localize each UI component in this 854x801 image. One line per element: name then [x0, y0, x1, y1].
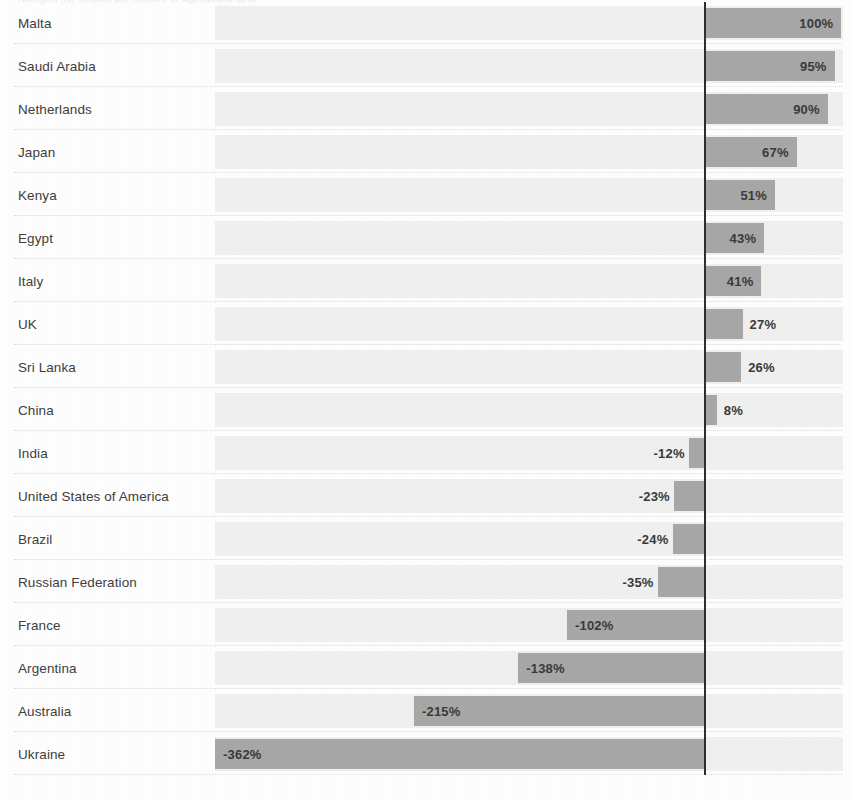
chart-row: Saudi Arabia95% [0, 45, 854, 88]
chart-row: Brazil-24% [0, 518, 854, 561]
bar-value-label: -138% [526, 647, 565, 690]
category-label: India [18, 432, 48, 475]
bar [706, 309, 743, 339]
chart-row: Kenya51% [0, 174, 854, 217]
bar-value-label: 43% [706, 217, 756, 260]
bar-value-label: -24% [627, 518, 669, 561]
bar-value-label: -35% [612, 561, 654, 604]
bar-value-label: -215% [422, 690, 461, 733]
row-background-band [215, 522, 843, 556]
chart-row: United States of America-23% [0, 475, 854, 518]
chart-row: France-102% [0, 604, 854, 647]
chart-row: India-12% [0, 432, 854, 475]
chart-row: Sri Lanka26% [0, 346, 854, 389]
bar-value-label: 51% [706, 174, 767, 217]
bar [215, 739, 705, 769]
bar [674, 481, 705, 511]
bar-value-label: 41% [706, 260, 753, 303]
bar-value-label: 100% [706, 2, 833, 45]
chart-row: Netherlands90% [0, 88, 854, 131]
row-background-band [215, 393, 843, 427]
chart-row: China8% [0, 389, 854, 432]
bar [706, 395, 717, 425]
row-background-band [215, 436, 843, 470]
chart-row: Egypt43% [0, 217, 854, 260]
bar-value-label: 8% [724, 389, 743, 432]
chart-row: Argentina-138% [0, 647, 854, 690]
bar-value-label: 67% [706, 131, 789, 174]
category-label: Japan [18, 131, 55, 174]
bar-value-label: 26% [748, 346, 775, 389]
row-background-band [215, 479, 843, 513]
bar [658, 567, 705, 597]
chart-row: Ukraine-362% [0, 733, 854, 776]
category-label: Italy [18, 260, 43, 303]
chart-root: Nitrogen (N) surplus per hectare of agri… [0, 0, 854, 801]
category-label: France [18, 604, 61, 647]
chart-row: Australia-215% [0, 690, 854, 733]
category-label: China [18, 389, 54, 432]
chart-row: Russian Federation-35% [0, 561, 854, 604]
zero-axis-line [704, 2, 706, 775]
chart-row: Italy41% [0, 260, 854, 303]
bar-value-label: -362% [223, 733, 262, 776]
row-separator [14, 774, 842, 776]
category-label: United States of America [18, 475, 169, 518]
row-background-band [215, 608, 843, 642]
category-label: Sri Lanka [18, 346, 76, 389]
row-background-band [215, 565, 843, 599]
bar-value-label: 95% [706, 45, 827, 88]
bar-rows-container: Malta100%Saudi Arabia95%Netherlands90%Ja… [0, 0, 854, 801]
bar-value-label: -23% [628, 475, 670, 518]
bar [706, 352, 741, 382]
chart-row: Malta100% [0, 2, 854, 45]
bar [689, 438, 705, 468]
category-label: Russian Federation [18, 561, 137, 604]
category-label: Ukraine [18, 733, 65, 776]
category-label: Saudi Arabia [18, 45, 96, 88]
category-label: Argentina [18, 647, 77, 690]
category-label: Brazil [18, 518, 52, 561]
chart-row: Japan67% [0, 131, 854, 174]
bar-value-label: -12% [643, 432, 685, 475]
bar-value-label: -102% [575, 604, 614, 647]
bar-value-label: 27% [750, 303, 777, 346]
category-label: Netherlands [18, 88, 92, 131]
category-label: Malta [18, 2, 52, 45]
category-label: Egypt [18, 217, 53, 260]
category-label: Australia [18, 690, 71, 733]
category-label: Kenya [18, 174, 57, 217]
bar-value-label: 90% [706, 88, 820, 131]
bar [673, 524, 705, 554]
chart-row: UK27% [0, 303, 854, 346]
category-label: UK [18, 303, 37, 346]
